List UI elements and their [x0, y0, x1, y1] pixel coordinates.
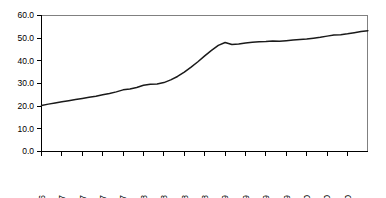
- line-chart: 0.0 10.0 20.0 30.0 40.0 50.0 60.0: [0, 0, 386, 198]
- y-tick-label: 0.0: [22, 146, 34, 156]
- y-tick-label: 20.0: [17, 101, 34, 111]
- x-tick-labels: Dec-06 Mar-07 Jun-07 Sep-07 Dec-07 Mar-0…: [37, 195, 353, 198]
- x-tick-label: Jun-09: [241, 195, 251, 198]
- x-tick-label: Sep-07: [98, 195, 108, 198]
- x-tick-label: Sep-10: [343, 195, 353, 198]
- data-series-line: [42, 31, 368, 106]
- x-tick-label: Mar-10: [302, 195, 312, 198]
- x-tick-label: Dec-09: [282, 195, 292, 198]
- y-tick-label: 30.0: [17, 78, 34, 88]
- x-tick-label: Mar-09: [220, 195, 230, 198]
- y-tick-label: 60.0: [17, 10, 34, 20]
- x-tick-label: Sep-08: [180, 195, 190, 198]
- x-tick-label: Dec-07: [118, 195, 128, 198]
- x-tick-label: Mar-07: [57, 195, 67, 198]
- x-tick-marks: [42, 152, 348, 156]
- x-tick-label: Dec-08: [200, 195, 210, 198]
- y-tick-label: 40.0: [17, 56, 34, 66]
- chart-canvas: 0.0 10.0 20.0 30.0 40.0 50.0 60.0: [0, 0, 386, 198]
- y-tick-label: 50.0: [17, 33, 34, 43]
- y-tick-labels: 0.0 10.0 20.0 30.0 40.0 50.0 60.0: [17, 10, 34, 156]
- x-tick-label: Dec-06: [37, 195, 47, 198]
- y-tick-marks: [37, 16, 41, 152]
- x-tick-label: Jun-08: [159, 195, 169, 198]
- x-tick-label: Jun-10: [322, 195, 332, 198]
- x-tick-label: Sep-09: [261, 195, 271, 198]
- y-tick-label: 10.0: [17, 124, 34, 134]
- x-tick-label: Mar-08: [139, 195, 149, 198]
- x-tick-label: Jun-07: [78, 195, 88, 198]
